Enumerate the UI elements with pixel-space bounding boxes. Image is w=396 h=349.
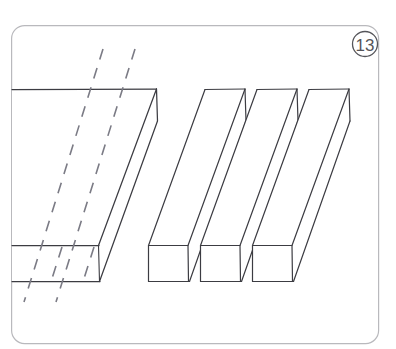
bar-1-top-edge xyxy=(205,89,245,90)
figure-drawing-canvas: 13 xyxy=(0,0,396,349)
bar-3-end-face xyxy=(253,246,293,282)
step-number-label: 13 xyxy=(356,36,375,55)
bar-3-top-edge xyxy=(309,89,349,90)
bar-2-top-edge xyxy=(257,89,297,90)
step-number-badge: 13 xyxy=(353,32,378,57)
slab-top-back-edge xyxy=(12,89,157,90)
bar-2-end-face xyxy=(201,246,241,282)
bar-1-end-face xyxy=(149,246,189,282)
figure-panel: 13 xyxy=(0,0,396,349)
